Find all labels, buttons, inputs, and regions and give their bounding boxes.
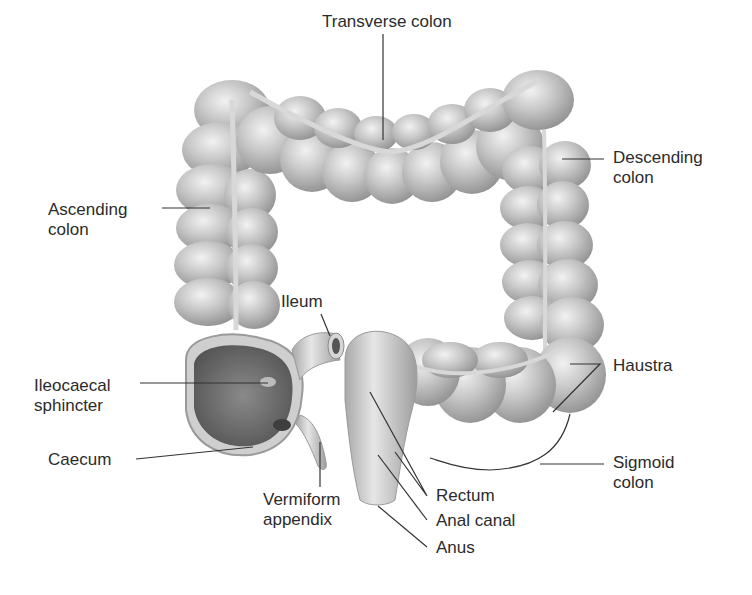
label-ileum: Ileum — [281, 292, 323, 312]
label-anal-canal: Anal canal — [436, 511, 515, 531]
large-intestine-diagram: Transverse colon Descending colon Ascend… — [0, 0, 752, 595]
label-ileocaecal-sphincter: Ileocaecal sphincter — [34, 376, 111, 416]
sigmoid-bracket — [430, 414, 570, 470]
ileum-shape — [292, 333, 344, 380]
label-descending-colon: Descending colon — [613, 148, 703, 188]
label-ascending-colon: Ascending colon — [48, 200, 127, 240]
label-caecum: Caecum — [48, 450, 111, 470]
rectum-shape — [345, 331, 417, 505]
label-vermiform-appendix: Vermiform appendix — [263, 490, 340, 530]
label-anus: Anus — [436, 538, 475, 558]
sigmoid-colon-shape — [396, 337, 606, 423]
label-transverse-colon: Transverse colon — [322, 12, 452, 32]
label-sigmoid-colon: Sigmoid colon — [613, 453, 674, 493]
leader-anus — [378, 506, 427, 547]
appendix-shape — [296, 415, 326, 469]
label-rectum: Rectum — [436, 486, 495, 506]
colon-illustration — [0, 0, 752, 595]
label-haustra: Haustra — [613, 356, 673, 376]
caecum-shape — [186, 334, 303, 455]
descending-colon-shape — [500, 130, 604, 353]
